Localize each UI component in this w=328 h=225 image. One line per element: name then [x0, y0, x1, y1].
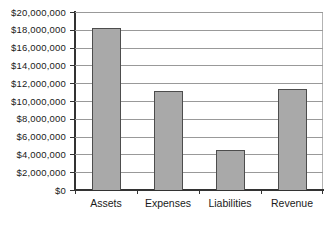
gridline	[75, 12, 323, 13]
y-tick-label: $12,000,000	[0, 78, 66, 89]
y-tick-mark	[70, 137, 75, 138]
y-tick-mark	[70, 83, 75, 84]
y-tick-label: $4,000,000	[0, 149, 66, 160]
y-tick-label: $0	[0, 185, 66, 196]
bar-liabilities	[216, 150, 245, 190]
y-tick-mark	[70, 154, 75, 155]
bar-expenses	[154, 91, 183, 190]
plot-area	[75, 12, 323, 190]
y-tick-mark	[70, 119, 75, 120]
x-category-label: Assets	[75, 197, 137, 209]
x-tick-mark	[137, 190, 138, 194]
y-tick-label: $8,000,000	[0, 113, 66, 124]
y-tick-mark	[70, 172, 75, 173]
y-tick-mark	[70, 12, 75, 13]
x-tick-mark	[199, 190, 200, 194]
y-tick-label: $14,000,000	[0, 60, 66, 71]
y-tick-label: $18,000,000	[0, 24, 66, 35]
y-tick-label: $10,000,000	[0, 96, 66, 107]
bar-assets	[92, 28, 121, 190]
y-tick-mark	[70, 48, 75, 49]
y-tick-label: $2,000,000	[0, 167, 66, 178]
x-category-label: Expenses	[137, 197, 199, 209]
y-tick-mark	[70, 65, 75, 66]
y-tick-mark	[70, 30, 75, 31]
y-tick-label: $6,000,000	[0, 131, 66, 142]
bar-revenue	[278, 89, 307, 190]
y-tick-label: $16,000,000	[0, 42, 66, 53]
bar-chart: $0$2,000,000$4,000,000$6,000,000$8,000,0…	[0, 0, 328, 225]
y-tick-mark	[70, 101, 75, 102]
x-tick-mark	[75, 190, 76, 194]
x-category-label: Liabilities	[199, 197, 261, 209]
y-tick-label: $20,000,000	[0, 7, 66, 18]
x-tick-mark	[261, 190, 262, 194]
x-category-label: Revenue	[261, 197, 323, 209]
x-tick-mark	[322, 190, 323, 194]
